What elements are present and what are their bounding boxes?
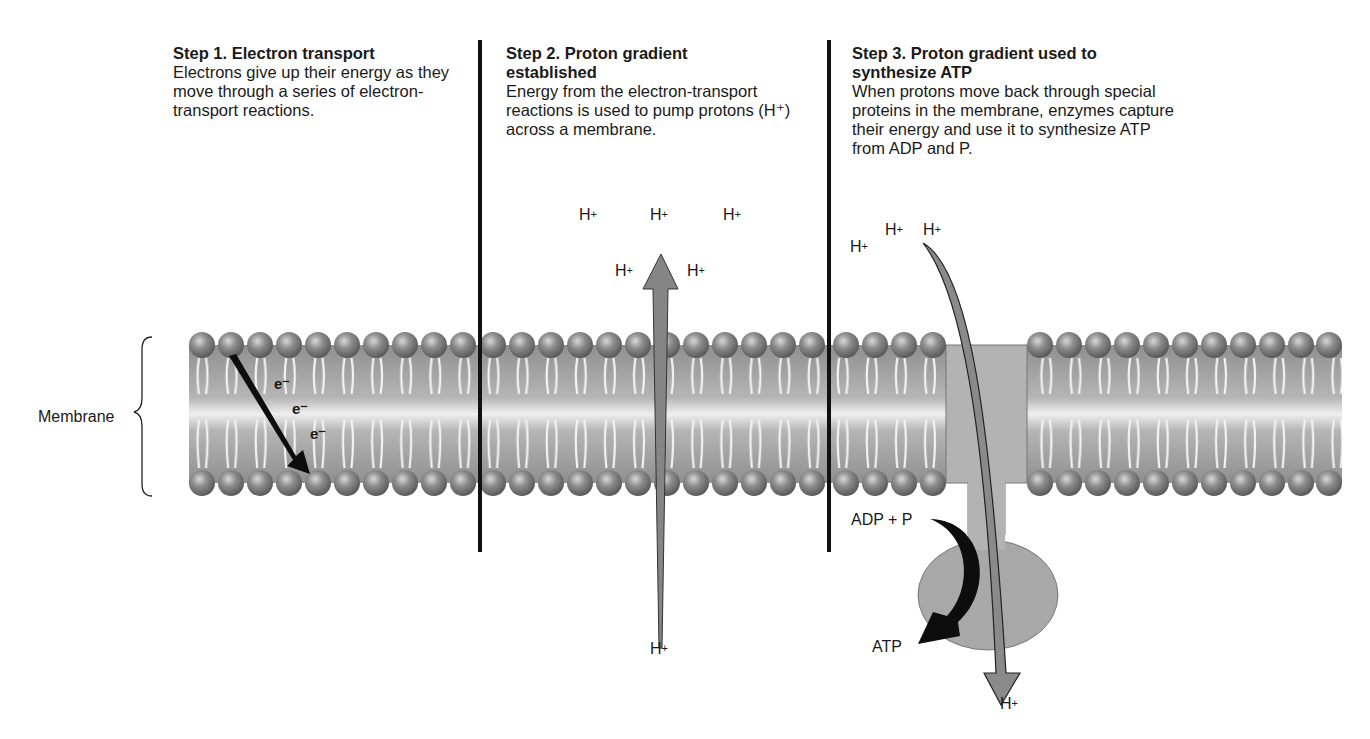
electron-label-3: e⁻ xyxy=(310,425,326,443)
atp-label: ATP xyxy=(872,638,902,656)
proton-symbol: H xyxy=(923,221,935,238)
membrane-brace xyxy=(134,337,152,496)
step-3-description: When protons move back through special p… xyxy=(852,82,1187,158)
proton-label: H+ xyxy=(650,206,668,224)
proton-charge: + xyxy=(662,642,668,654)
proton-charge: + xyxy=(862,240,868,252)
proton-symbol: H xyxy=(579,206,591,223)
proton-charge: + xyxy=(1012,697,1018,709)
proton-label: H+ xyxy=(723,206,741,224)
membrane-label: Membrane xyxy=(38,408,114,426)
proton-label: H+ xyxy=(650,640,668,658)
step-divider-2 xyxy=(827,40,831,552)
proton-label: H+ xyxy=(850,238,868,256)
proton-symbol: H xyxy=(615,262,627,279)
proton-charge: + xyxy=(735,208,741,220)
proton-symbol: H xyxy=(850,238,862,255)
proton-charge: + xyxy=(591,208,597,220)
proton-symbol: H xyxy=(723,206,735,223)
proton-charge: + xyxy=(699,264,705,276)
proton-label: H+ xyxy=(615,262,633,280)
proton-label: H+ xyxy=(885,221,903,239)
proton-symbol: H xyxy=(687,262,699,279)
proton-charge: + xyxy=(662,208,668,220)
proton-charge: + xyxy=(897,223,903,235)
proton-label: H+ xyxy=(687,262,705,280)
step-2-description: Energy from the electron-transport react… xyxy=(506,82,826,139)
step-divider-1 xyxy=(478,40,482,552)
proton-symbol: H xyxy=(1000,695,1012,712)
proton-symbol: H xyxy=(650,640,662,657)
electron-label-2: e⁻ xyxy=(292,400,308,418)
proton-charge: + xyxy=(627,264,633,276)
step-3: Step 3. Proton gradient used to synthesi… xyxy=(852,44,1187,158)
proton-symbol: H xyxy=(650,206,662,223)
step-1: Step 1. Electron transport Electrons giv… xyxy=(173,44,473,120)
adp-p-label: ADP + P xyxy=(851,511,913,529)
proton-label: H+ xyxy=(1000,695,1018,713)
step-2: Step 2. Proton gradient established Ener… xyxy=(506,44,826,139)
proton-label: H+ xyxy=(579,206,597,224)
step-1-title: Step 1. Electron transport xyxy=(173,44,473,63)
proton-label: H+ xyxy=(923,221,941,239)
proton-charge: + xyxy=(935,223,941,235)
lipid-bilayer xyxy=(189,345,1342,483)
electron-label-1: e⁻ xyxy=(274,375,290,393)
proton-symbol: H xyxy=(885,221,897,238)
step-1-description: Electrons give up their energy as they m… xyxy=(173,63,473,120)
step-2-title: Step 2. Proton gradient established xyxy=(506,44,746,82)
step-3-title: Step 3. Proton gradient used to synthesi… xyxy=(852,44,1172,82)
